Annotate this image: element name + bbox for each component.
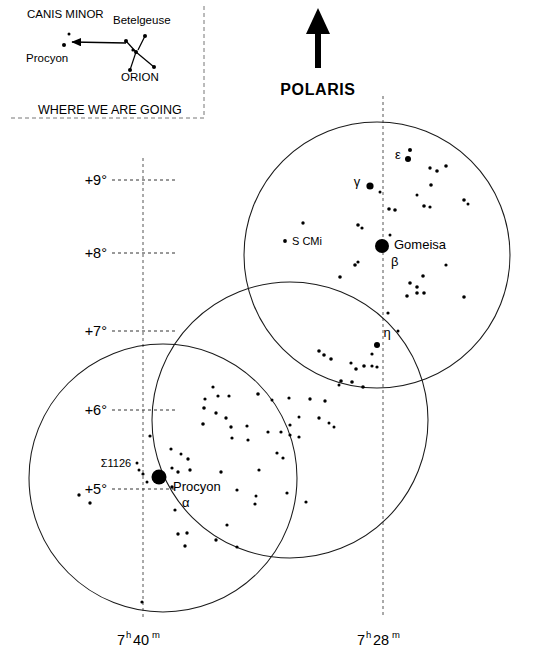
inset-caption: WHERE WE ARE GOING [38,103,182,117]
ra-minutes-sup-1: m [392,629,400,640]
field-star-70 [186,457,189,460]
field-star-13 [301,221,304,224]
declination-label-0: +9° [85,172,107,188]
constellation-line-3 [136,52,154,67]
inset-star-3 [143,34,147,38]
field-star-53 [245,424,248,427]
field-star-43 [256,392,260,396]
field-star-83 [304,500,307,503]
field-star-0 [408,148,412,152]
field-star-46 [308,397,311,400]
field-star-65 [275,451,278,454]
field-star-3 [444,164,448,168]
field-star-23 [415,285,419,289]
declination-label-4: +5° [85,481,107,497]
field-star-59 [333,426,336,429]
field-star-12 [393,208,397,212]
field-star-14 [356,223,360,227]
constellation-line-2 [130,52,136,70]
field-star-22 [408,281,412,285]
field-star-68 [169,447,172,450]
field-star-15 [360,226,363,229]
field-star-50 [224,416,227,419]
field-star-24 [405,294,409,298]
field-star-63 [230,436,233,439]
field-star-2 [435,169,439,173]
star-label-procyon: Procyon [173,479,221,494]
field-star-95 [140,600,143,603]
field-star-34 [370,352,373,355]
field-star-66 [281,456,284,459]
polaris-label: POLARIS [280,81,355,98]
field-star-8 [416,194,419,197]
bayer-label-procyon: α [182,495,190,510]
star-chart-figure: CANIS MINORProcyonBetelgeuseORIONWHERE W… [0,0,538,670]
field-star-41 [227,394,230,397]
field-star-71 [136,462,139,465]
field-star-51 [201,422,205,426]
greek-label-1: γ [354,174,361,189]
field-star-67 [148,434,151,437]
field-star-47 [323,399,326,402]
field-star-17 [353,263,357,267]
field-star-45 [287,396,290,399]
declination-label-1: +8° [85,245,107,261]
inset-star-4 [134,50,138,54]
field-star-19 [338,275,342,279]
field-star-30 [329,357,333,361]
field-star-6 [422,204,426,208]
field-star-4 [379,191,382,194]
field-star-56 [298,416,301,419]
star-s-cmi [283,239,287,243]
field-of-view-circles [29,122,510,612]
field-star-11 [387,207,391,211]
field-star-49 [214,411,217,414]
field-star-69 [180,453,183,456]
inset-star-1 [68,33,71,36]
inset-star-7 [152,65,156,69]
inset-label-orion: ORION [121,71,159,83]
field-star-54 [266,430,269,433]
field-star-80 [235,488,238,491]
inset-star-0 [62,43,66,47]
field-star-81 [257,468,260,471]
field-star-92 [214,538,217,541]
star-label-sigma-1126: Σ1126 [101,457,131,469]
field-star-25 [415,291,419,295]
field-star-58 [328,422,331,425]
field-star-87 [88,501,91,504]
greek-label-0: ε [395,147,401,162]
field-star-98 [375,365,378,368]
field-star-64 [246,438,249,441]
star-label-gomeisa: Gomeisa [394,237,447,252]
field-star-60 [279,430,282,433]
field-star-89 [176,532,179,535]
field-of-view-middle [152,282,428,558]
inset-label-betelgeuse: Betelgeuse [113,14,171,26]
inset-direction-arrow [72,42,126,43]
polaris-indicator: POLARIS [280,8,355,98]
field-star-29 [322,353,326,357]
field-star-40 [203,397,206,400]
bayer-label-gomeisa: β [391,254,398,269]
ra-hours-sup-0: h [126,629,131,640]
field-star-44 [271,399,274,402]
field-star-28 [317,349,321,353]
ra-hours-1: 7 [357,632,365,648]
constellation-line-1 [138,36,145,50]
field-star-91 [183,544,186,547]
field-star-20 [444,263,447,266]
inset-star-5 [131,48,134,51]
inset-label-canis-minor: CANIS MINOR [27,8,104,20]
field-star-48 [202,406,206,410]
field-star-9 [462,198,466,202]
star-field: εγηGomeisaβProcyonαS CMiΣ1126 [77,147,469,604]
field-star-94 [235,545,238,548]
field-of-view-north [244,122,510,388]
inset-where-we-are-going: CANIS MINORProcyonBetelgeuseORIONWHERE W… [8,6,204,118]
field-star-61 [288,433,291,436]
field-star-99 [338,384,341,387]
field-star-52 [229,425,232,428]
field-star-62 [297,435,300,438]
ra-minutes-sup-0: m [152,629,160,640]
